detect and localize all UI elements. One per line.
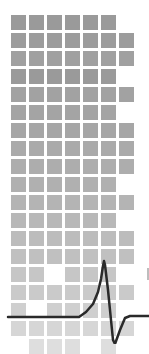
waveform-line — [8, 261, 149, 344]
